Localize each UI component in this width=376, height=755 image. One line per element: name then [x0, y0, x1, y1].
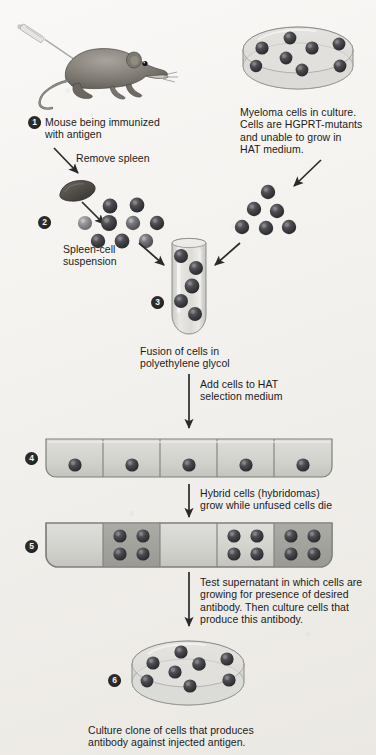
- cell: [192, 657, 206, 671]
- cell: [136, 529, 149, 542]
- remove-spleen-label: Remove spleen: [76, 152, 150, 164]
- cell: [182, 458, 195, 471]
- cell: [78, 216, 92, 230]
- arrow-to-screening: [182, 572, 196, 634]
- mouse-icon: [40, 49, 178, 109]
- cell: [227, 547, 240, 560]
- hybrid-cells-label: Hybrid cells (hybridomas) grow while unf…: [200, 487, 372, 512]
- cell: [126, 216, 140, 230]
- cell: [282, 220, 296, 234]
- cell: [227, 529, 240, 542]
- cell: [250, 529, 263, 542]
- cell: [239, 458, 252, 471]
- cell: [333, 38, 346, 51]
- step-1-caption-group: 1 Mouse being immunized with antigen: [28, 116, 188, 141]
- test-supernatant-label: Test supernatant in which cells are grow…: [200, 576, 376, 626]
- test-tube-illustration: [166, 236, 212, 342]
- cell: [174, 249, 188, 263]
- arrow-myeloma-to-tube: [208, 240, 252, 276]
- step-1-badge: 1: [28, 116, 41, 129]
- step-1-caption: Mouse being immunized with antigen: [45, 116, 160, 141]
- cell: [113, 529, 126, 542]
- clone-petri-dish: [128, 636, 252, 718]
- culture-tray-step-5: [44, 521, 334, 571]
- cell: [101, 215, 117, 231]
- arrow-to-hat-medium: [182, 374, 196, 436]
- cell: [259, 221, 273, 235]
- well-shaded: [103, 523, 160, 567]
- culture-tray-step-4: [44, 437, 334, 481]
- cell: [235, 220, 249, 234]
- myeloma-cell-cluster: [216, 182, 326, 238]
- well-shaded: [274, 523, 332, 567]
- step-6-caption: Culture clone of cells that produces ant…: [88, 724, 318, 749]
- step-2-badge: 2: [38, 216, 51, 229]
- cell: [220, 652, 233, 665]
- cell: [68, 458, 81, 471]
- cell: [261, 185, 275, 199]
- cell: [307, 547, 320, 560]
- cell: [270, 204, 284, 218]
- cell: [183, 679, 196, 692]
- cell: [284, 32, 297, 45]
- cell: [334, 60, 347, 73]
- myeloma-description-label: Myeloma cells in culture. Cells are HGPR…: [240, 106, 372, 156]
- cell: [130, 198, 145, 213]
- add-hat-medium-label: Add cells to HAT selection medium: [200, 378, 350, 403]
- step-2-caption: Spleen-cell suspension: [63, 243, 143, 268]
- mouse-with-syringe-illustration: [14, 18, 186, 114]
- cell: [280, 52, 293, 65]
- cell: [113, 547, 126, 560]
- cell: [247, 202, 261, 216]
- cell: [307, 529, 320, 542]
- cell: [136, 547, 149, 560]
- cell: [296, 64, 309, 77]
- cell: [174, 294, 188, 308]
- step-6-badge: 6: [108, 674, 121, 687]
- cell: [189, 261, 203, 275]
- cell: [174, 645, 187, 658]
- cell: [141, 675, 154, 688]
- myeloma-petri-dish: [240, 22, 360, 100]
- cell: [284, 547, 297, 560]
- cell: [150, 216, 164, 230]
- cell: [146, 656, 159, 669]
- cell: [305, 41, 318, 54]
- step-5-badge: 5: [25, 540, 38, 553]
- cell: [168, 665, 181, 678]
- cell: [250, 547, 263, 560]
- cell: [188, 307, 202, 321]
- step-3-caption: Fusion of cells in polyethylene glycol: [140, 345, 270, 370]
- cell: [222, 673, 235, 686]
- arrow-to-hybridoma-growth: [182, 484, 196, 524]
- cell: [250, 60, 262, 72]
- step-3-badge: 3: [151, 296, 164, 309]
- cell: [255, 41, 268, 54]
- cell: [185, 279, 200, 294]
- figure-canvas: 1 Mouse being immunized with antigen Rem…: [0, 0, 376, 755]
- cell: [284, 529, 297, 542]
- cell: [103, 199, 118, 214]
- step-4-badge: 4: [25, 452, 38, 465]
- cell: [296, 458, 309, 471]
- cell: [125, 458, 138, 471]
